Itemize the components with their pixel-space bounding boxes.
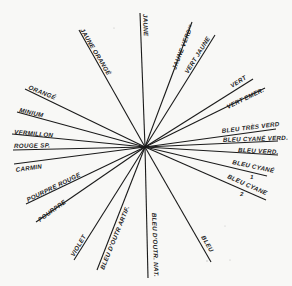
color-wheel-diagram: JAUNE JAUNE VERDʳᵉ VERT JAUNE VERT VERT …	[0, 0, 292, 286]
label-vert-emer: VERT EMER.	[225, 86, 265, 110]
speck	[206, 260, 207, 261]
label-rouge-sp: ROUGE SP.	[14, 141, 50, 149]
label-bleu-cyane-1: BLEU CYANÉ	[232, 158, 276, 174]
label-pourpre-rouge: POURPRE ROUGE	[25, 171, 82, 203]
label-bleu-cyane-1-number: 1	[250, 173, 254, 180]
label-bleu-tres-verd: BLEU TRÈS VERD	[221, 120, 280, 134]
label-jaune: JAUNE	[142, 14, 150, 37]
speck	[225, 226, 226, 227]
speck	[229, 259, 230, 260]
label-pourpre: POURPRE	[36, 198, 67, 223]
label-vermillon: VERMILLON	[14, 128, 54, 138]
ray-bleu-cyane-2	[145, 147, 266, 200]
ray-jaune-orange	[79, 30, 145, 147]
label-bleu-cyane-2: BLEU CYANE	[227, 173, 269, 197]
ray-bleu-outr-nat	[145, 147, 148, 278]
ray-orange	[25, 89, 145, 147]
labels: JAUNE JAUNE VERDʳᵉ VERT JAUNE VERT VERT …	[14, 14, 288, 277]
label-minium: MINIUM	[19, 106, 45, 118]
label-jaune-orange: JAUNE ORANGÉ	[79, 27, 113, 77]
label-bleu-cyane-2-number: 2	[239, 190, 244, 197]
label-bleu: BLEU	[200, 234, 215, 253]
label-bleu-cyane-verd: BLEU CYANÉ VERD.	[223, 134, 288, 143]
label-bleu-outr-artif: BLEU D'OUTR ARTIF.	[98, 205, 130, 271]
label-bleu-outr-nat: BLEU D'OUTR. NAT.	[151, 213, 160, 277]
label-vert: VERT	[229, 73, 248, 89]
radial-lines-canvas: JAUNE JAUNE VERDʳᵉ VERT JAUNE VERT VERT …	[0, 0, 292, 286]
speck	[113, 27, 114, 28]
label-bleu-verd: BLEU VERD.	[238, 146, 279, 155]
label-carmin: CARMIN	[15, 162, 42, 173]
